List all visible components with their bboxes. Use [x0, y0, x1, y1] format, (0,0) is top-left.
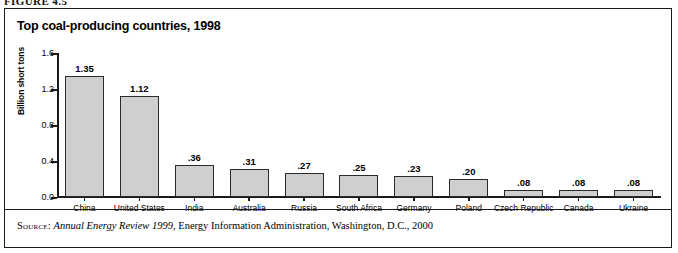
bar[interactable]: [65, 76, 104, 198]
bar[interactable]: [504, 190, 543, 197]
bar[interactable]: [339, 175, 378, 198]
x-tick-mark: [248, 197, 250, 201]
bar-value-label: .20: [462, 166, 475, 177]
bar[interactable]: [394, 176, 433, 197]
section-divider: [5, 209, 671, 210]
x-tick-mark: [413, 197, 415, 201]
y-tick-label: 0.8: [41, 120, 54, 130]
chart-title: Top coal-producing countries, 1998: [17, 19, 220, 33]
bar-group: .08Canada: [551, 53, 606, 197]
x-axis-category-label: South Africa: [336, 203, 382, 213]
bar-value-label: .08: [517, 177, 530, 188]
x-tick-mark: [303, 197, 305, 201]
x-axis-category-label: Canada: [564, 203, 594, 213]
bar-group: .36India: [167, 53, 222, 197]
x-tick-mark: [633, 197, 635, 201]
figure-number-label: FIGURE 4.5: [4, 0, 67, 7]
bar-value-label: .23: [407, 163, 420, 174]
bar[interactable]: [175, 165, 214, 197]
x-tick-mark: [468, 197, 470, 201]
y-tick-label: 1.2: [41, 84, 54, 94]
bar-value-label: .31: [243, 156, 256, 167]
bar[interactable]: [559, 190, 598, 197]
bar[interactable]: [449, 179, 488, 197]
bar[interactable]: [120, 96, 159, 197]
bar[interactable]: [230, 169, 269, 197]
y-tick-label: 1.6: [41, 48, 54, 58]
bar-value-label: 1.35: [75, 63, 94, 74]
x-tick-mark: [578, 197, 580, 201]
x-axis-category-label: Poland: [456, 203, 482, 213]
bar-value-label: .36: [188, 152, 201, 163]
bar-group: .27Russia: [277, 53, 332, 197]
y-tick-label: 0.0: [41, 192, 54, 202]
x-axis-category-label: Russia: [291, 203, 317, 213]
x-tick-mark: [194, 197, 196, 201]
x-axis-category-label: India: [185, 203, 203, 213]
y-tick-label: 0.4: [41, 156, 54, 166]
x-axis-category-label: China: [73, 203, 95, 213]
source-publication: Annual Energy Review 1999: [54, 220, 173, 231]
source-rest: , Energy Information Administration, Was…: [173, 220, 433, 231]
bar-group: .23Germany: [386, 53, 441, 197]
x-axis-category-label: Australia: [233, 203, 266, 213]
bars-layer: 1.35China1.12United States.36India.31Aus…: [57, 53, 661, 197]
figure-frame: Top coal-producing countries, 1998 Billi…: [4, 8, 672, 248]
bar-group: .25South Africa: [332, 53, 387, 197]
bar-group: 1.35China: [57, 53, 112, 197]
x-axis-category-label: Czech Republic: [494, 203, 554, 213]
bar-group: .08Ukraine: [606, 53, 661, 197]
chart-panel: Top coal-producing countries, 1998 Billi…: [5, 9, 671, 209]
source-note: Source: Annual Energy Review 1999, Energ…: [17, 220, 433, 231]
bar-value-label: .08: [572, 177, 585, 188]
x-tick-mark: [139, 197, 141, 201]
bar[interactable]: [614, 190, 653, 197]
x-axis-category-label: United States: [114, 203, 165, 213]
x-tick-mark: [358, 197, 360, 201]
bar-group: 1.12United States: [112, 53, 167, 197]
bar-value-label: .25: [352, 162, 365, 173]
y-axis-title: Billion short tons: [16, 47, 26, 115]
bar-value-label: .08: [627, 177, 640, 188]
bar-value-label: 1.12: [130, 83, 149, 94]
source-kicker: Source:: [17, 220, 51, 231]
bar-group: .08Czech Republic: [496, 53, 551, 197]
bar-value-label: .27: [297, 160, 310, 171]
x-tick-mark: [84, 197, 86, 201]
bar[interactable]: [285, 173, 324, 197]
x-tick-mark: [523, 197, 525, 201]
plot-area: 0.00.40.81.21.6 1.35China1.12United Stat…: [57, 53, 661, 197]
x-axis-category-label: Ukraine: [619, 203, 648, 213]
bar-group: .20Poland: [441, 53, 496, 197]
x-axis-category-label: Germany: [396, 203, 431, 213]
bar-group: .31Australia: [222, 53, 277, 197]
